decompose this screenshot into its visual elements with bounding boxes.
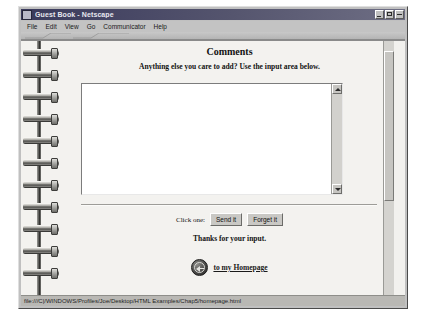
- title-bar: Guest Book - Netscape: [21, 9, 405, 20]
- thanks-message: Thanks for your input.: [65, 234, 394, 243]
- minimize-icon[interactable]: [375, 10, 384, 19]
- close-icon[interactable]: [395, 10, 404, 19]
- send-it-button[interactable]: Send it: [210, 213, 242, 226]
- binding-ring: [23, 115, 59, 122]
- menu-item-go[interactable]: Go: [83, 23, 100, 30]
- binding-ring: [23, 49, 59, 56]
- binding-ring: [23, 137, 59, 144]
- forget-it-button[interactable]: Forget it: [247, 213, 283, 226]
- binding-rod: [37, 41, 41, 295]
- page-subtitle: Anything else you care to add? Use the i…: [65, 62, 394, 71]
- homepage-link-row: to my Homepage: [65, 259, 394, 276]
- screenshot-root: Guest Book - Netscape File Edit View Go …: [0, 0, 425, 322]
- window-controls: [375, 10, 404, 19]
- binding-ring: [23, 247, 59, 254]
- homepage-link[interactable]: to my Homepage: [213, 263, 267, 272]
- binding-ring: [23, 159, 59, 166]
- menu-item-communicator[interactable]: Communicator: [99, 23, 149, 30]
- textarea-scrollbar[interactable]: [331, 84, 342, 194]
- divider: [81, 204, 377, 206]
- binding-ring: [23, 269, 59, 276]
- menu-item-view[interactable]: View: [61, 23, 83, 30]
- maximize-icon[interactable]: [385, 10, 394, 19]
- comments-textarea[interactable]: [82, 84, 331, 194]
- comments-textarea-wrapper: [81, 83, 343, 195]
- toolbar[interactable]: [21, 32, 405, 40]
- menu-bar: File Edit View Go Communicator Help: [21, 21, 405, 32]
- window-title: Guest Book - Netscape: [35, 11, 375, 18]
- netscape-document-icon: [22, 10, 32, 20]
- menu-item-help[interactable]: Help: [150, 23, 171, 30]
- guest-book-page: Comments Anything else you care to add? …: [21, 41, 394, 295]
- scroll-up-icon[interactable]: [332, 84, 342, 94]
- binding-ring: [23, 181, 59, 188]
- spiral-binding-graphic: [23, 41, 65, 295]
- page-title: Comments: [65, 46, 394, 57]
- binding-ring: [23, 71, 59, 78]
- binding-ring: [23, 203, 59, 210]
- back-arrow-icon[interactable]: [191, 259, 208, 276]
- status-bar: file:///C|/WINDOWS/Profiles/Joe/Desktop/…: [21, 295, 405, 306]
- form-button-row: Click one: Send it Forget it: [65, 213, 394, 226]
- binding-ring: [23, 225, 59, 232]
- page-scrollbar[interactable]: [383, 41, 394, 295]
- click-one-label: Click one:: [176, 216, 205, 224]
- status-url: file:///C|/WINDOWS/Profiles/Joe/Desktop/…: [24, 298, 241, 304]
- browser-window: Guest Book - Netscape File Edit View Go …: [18, 6, 408, 309]
- binding-ring: [23, 93, 59, 100]
- toolbar-ridges-icon: [25, 33, 135, 39]
- menu-item-edit[interactable]: Edit: [41, 23, 60, 30]
- page-scrollbar-thumb[interactable]: [384, 51, 394, 201]
- menu-item-file[interactable]: File: [23, 23, 41, 30]
- scroll-down-icon[interactable]: [332, 184, 342, 194]
- browser-content-area: Comments Anything else you care to add? …: [21, 40, 405, 295]
- page-body: Comments Anything else you care to add? …: [65, 41, 394, 295]
